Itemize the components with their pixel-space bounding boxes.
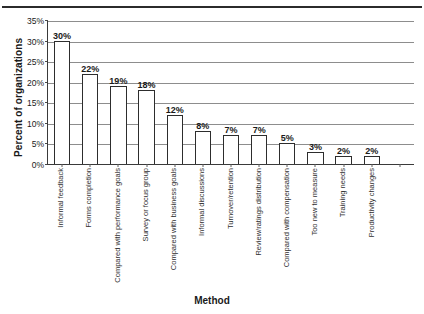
bar-chart: Percent of organizations 0%5%10%15%20%25…	[0, 0, 424, 314]
x-category-label: Productivity changes	[368, 168, 376, 237]
bar[interactable]: 22%	[82, 74, 98, 165]
bar[interactable]: 30%	[54, 41, 70, 164]
bar[interactable]: 2%	[335, 156, 351, 164]
bar-slot: 12%	[161, 21, 189, 164]
bar-value-label: 12%	[166, 105, 184, 115]
bar-slot: 30%	[48, 21, 76, 164]
bar[interactable]: 7%	[223, 135, 239, 164]
x-category-label: Review/ratings distribution	[255, 168, 263, 256]
bar-value-label: 7%	[253, 125, 266, 135]
category-label-slot: Too new to measure	[301, 168, 329, 286]
bar-value-label: 22%	[81, 64, 99, 74]
x-category-label: Compared with compensation	[283, 168, 291, 267]
category-label-slot	[386, 168, 414, 286]
bar[interactable]: 2%	[364, 156, 380, 164]
bar[interactable]: 8%	[195, 131, 211, 164]
x-tick-mark	[371, 164, 372, 167]
x-category-label: Turnover/retention	[227, 168, 235, 229]
category-label-slot: Compared with business goals	[160, 168, 188, 286]
bar-slot: 5%	[273, 21, 301, 164]
bar-slot: 2%	[358, 21, 386, 164]
x-tick-mark	[90, 164, 91, 167]
x-tick-mark	[118, 164, 119, 167]
category-label-slot: Compared with compensation	[273, 168, 301, 286]
x-tick-mark	[62, 164, 63, 167]
bar-slot: 7%	[217, 21, 245, 164]
category-label-slot: Productivity changes	[358, 168, 386, 286]
x-category-label: Compared with business goals	[170, 168, 178, 270]
category-label-slot: Review/ratings distribution	[245, 168, 273, 286]
x-category-label: Informal discussions	[198, 168, 206, 236]
bar-value-label: 5%	[281, 133, 294, 143]
bar-slot: 8%	[189, 21, 217, 164]
x-axis-title: Method	[0, 295, 424, 306]
bar[interactable]: 5%	[279, 143, 295, 164]
x-tick-mark	[202, 164, 203, 167]
y-tick-label: 10%	[18, 120, 44, 128]
bar-value-label: 3%	[309, 142, 322, 152]
x-tick-mark	[146, 164, 147, 167]
bar-value-label: 19%	[109, 76, 127, 86]
bar-slot	[386, 21, 414, 164]
bars-container: 30%22%19%18%12%8%7%7%5%3%2%2%	[48, 21, 414, 164]
category-label-slot: Forms completion	[75, 168, 103, 286]
bar[interactable]: 19%	[110, 86, 126, 164]
x-tick-mark	[231, 164, 232, 167]
bar[interactable]: 12%	[167, 115, 183, 164]
plot-area: 30%22%19%18%12%8%7%7%5%3%2%2%	[47, 21, 414, 165]
y-tick-label: 35%	[18, 17, 44, 25]
x-category-label: Compared with performance goals	[114, 168, 122, 283]
y-tick-label: 15%	[18, 99, 44, 107]
y-tick-label: 0%	[18, 161, 44, 169]
bar-slot: 7%	[245, 21, 273, 164]
y-tick-label: 5%	[18, 140, 44, 148]
y-tick-label: 20%	[18, 79, 44, 87]
bar[interactable]: 3%	[307, 152, 323, 164]
x-tick-mark	[399, 164, 400, 167]
x-tick-mark	[259, 164, 260, 167]
x-category-label: Informal feedback	[57, 168, 65, 228]
bar-slot: 3%	[301, 21, 329, 164]
category-label-slot: Informal feedback	[47, 168, 75, 286]
category-label-slot: Turnover/retention	[216, 168, 244, 286]
bar-value-label: 2%	[337, 146, 350, 156]
x-tick-mark	[287, 164, 288, 167]
category-label-slot: Compared with performance goals	[103, 168, 131, 286]
x-tick-mark	[315, 164, 316, 167]
bar[interactable]: 7%	[251, 135, 267, 164]
bar-slot: 19%	[104, 21, 132, 164]
y-tick-label: 30%	[18, 38, 44, 46]
bar-slot: 22%	[76, 21, 104, 164]
category-label-slot: Survey or focus group	[132, 168, 160, 286]
x-tick-mark	[174, 164, 175, 167]
x-category-label: Training needs	[339, 168, 347, 217]
bar-value-label: 7%	[224, 125, 237, 135]
bar[interactable]: 18%	[138, 90, 154, 164]
category-label-slot: Informal discussions	[188, 168, 216, 286]
x-category-label: Too new to measure	[311, 168, 319, 236]
y-axis-tick-labels: 0%5%10%15%20%25%30%35%	[18, 21, 44, 165]
x-axis-category-labels: Informal feedbackForms completionCompare…	[47, 168, 414, 286]
x-tick-mark	[343, 164, 344, 167]
bar-slot: 2%	[330, 21, 358, 164]
top-divider-rule	[2, 6, 422, 8]
category-label-slot: Training needs	[329, 168, 357, 286]
y-tick-label: 25%	[18, 58, 44, 66]
x-category-label: Survey or focus group	[142, 168, 150, 241]
bar-slot: 18%	[132, 21, 160, 164]
bar-value-label: 30%	[53, 31, 71, 41]
x-category-label: Forms completion	[85, 168, 93, 228]
bar-value-label: 8%	[196, 121, 209, 131]
bar-value-label: 2%	[365, 146, 378, 156]
bar-value-label: 18%	[138, 80, 156, 90]
